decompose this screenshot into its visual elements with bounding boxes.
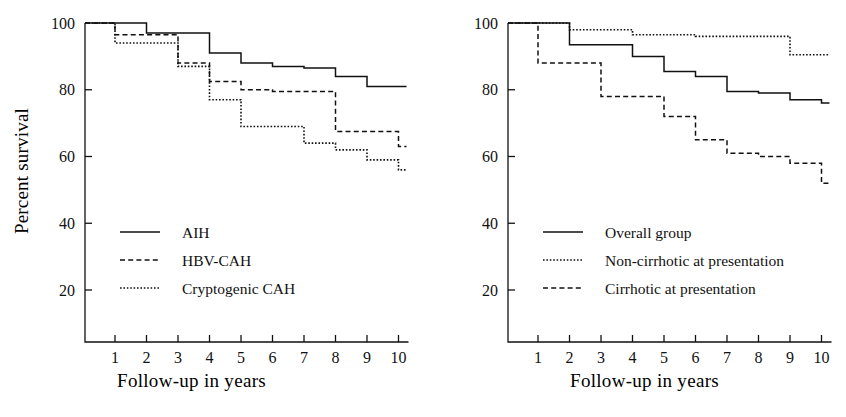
legend-label-2: Cryptogenic CAH (182, 280, 295, 297)
x-tick-label: 7 (723, 349, 731, 366)
y-tick-label: 40 (482, 215, 498, 232)
x-tick-label: 3 (597, 349, 605, 366)
chart-panel-left: Percent survival 2040608010012345678910A… (0, 0, 423, 417)
x-tick-label: 4 (206, 349, 214, 366)
y-tick-label: 60 (59, 148, 75, 165)
x-axis-title-left: Follow-up in years (0, 370, 403, 392)
x-tick-label: 6 (692, 349, 700, 366)
x-tick-label: 2 (143, 349, 151, 366)
x-tick-label: 7 (300, 349, 308, 366)
legend-label-1: HBV-CAH (182, 252, 251, 269)
series-line-0 (508, 23, 830, 103)
y-tick-label: 80 (59, 81, 75, 98)
x-tick-label: 2 (566, 349, 574, 366)
plot-area-right: 2040608010012345678910Overall groupNon-c… (423, 0, 846, 417)
x-tick-label: 10 (391, 349, 407, 366)
plot-area-left: 2040608010012345678910AIHHBV-CAHCryptoge… (0, 0, 423, 417)
x-tick-label: 5 (660, 349, 668, 366)
x-tick-label: 8 (755, 349, 763, 366)
legend-label-0: AIH (182, 224, 210, 241)
y-tick-label: 40 (59, 215, 75, 232)
legend-label-1: Non-cirrhotic at presentation (605, 252, 784, 269)
x-tick-label: 10 (814, 349, 830, 366)
x-axis-title-right: Follow-up in years (433, 370, 846, 392)
x-tick-label: 8 (332, 349, 340, 366)
series-line-2 (85, 23, 407, 170)
chart-panel-right: 2040608010012345678910Overall groupNon-c… (423, 0, 846, 417)
x-tick-label: 9 (363, 349, 371, 366)
survival-figure: Percent survival 2040608010012345678910A… (0, 0, 846, 417)
y-tick-label: 60 (482, 148, 498, 165)
series-line-0 (85, 23, 407, 86)
x-tick-label: 5 (237, 349, 245, 366)
x-tick-label: 3 (174, 349, 182, 366)
x-tick-label: 9 (786, 349, 794, 366)
x-tick-label: 4 (629, 349, 637, 366)
y-tick-label: 20 (482, 282, 498, 299)
x-tick-label: 1 (534, 349, 542, 366)
series-line-1 (508, 23, 830, 55)
series-line-1 (85, 23, 407, 146)
x-tick-label: 1 (111, 349, 119, 366)
y-tick-label: 100 (51, 15, 75, 32)
series-line-2 (508, 23, 830, 183)
y-tick-label: 20 (59, 282, 75, 299)
y-tick-label: 100 (474, 15, 498, 32)
legend-label-2: Cirrhotic at presentation (605, 280, 756, 297)
y-tick-label: 80 (482, 81, 498, 98)
x-tick-label: 6 (269, 349, 277, 366)
legend-label-0: Overall group (605, 224, 692, 241)
